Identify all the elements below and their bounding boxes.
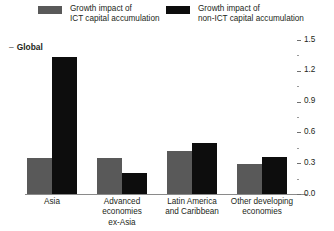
- x-axis-category-line: and Caribbean: [158, 207, 226, 217]
- bar-non-ict-group-2: [192, 143, 217, 194]
- legend-label-non-ict-line2: non-ICT capital accumulation: [198, 14, 304, 23]
- legend-label-ict-line1: Growth impact of: [70, 4, 132, 13]
- y-axis-tick: 1.2: [297, 71, 301, 72]
- tick-mark-icon: [297, 102, 301, 103]
- tick-mark-icon: [297, 117, 299, 118]
- x-axis-category-line: Other developing: [228, 197, 296, 207]
- legend-label-non-ict-line1: Growth impact of: [198, 4, 260, 13]
- y-axis-tick-label: 0.9: [304, 96, 315, 105]
- x-axis-category-line: Advanced economies: [88, 197, 156, 218]
- legend-swatch-icon: [38, 6, 62, 14]
- tick-mark-icon: [297, 163, 301, 164]
- x-axis-category-line: Latin America: [158, 197, 226, 207]
- legend-item-ict: Growth impact of ICT capital accumulatio…: [38, 4, 160, 24]
- y-axis: 0.00.30.60.91.21.5: [297, 40, 334, 200]
- x-axis-baseline: [25, 194, 307, 195]
- y-axis-minor-tick: [297, 55, 299, 56]
- legend-item-non-ict: Growth impact of non-ICT capital accumul…: [166, 4, 304, 24]
- legend-swatch-icon: [166, 6, 190, 14]
- y-axis-tick-label: 0.6: [304, 127, 315, 136]
- bar-ict-group-0: [27, 158, 52, 194]
- tick-mark-icon: [297, 132, 301, 133]
- tick-mark-icon: [297, 86, 299, 87]
- y-axis-tick-label: 1.5: [304, 35, 315, 44]
- y-axis-minor-tick: [297, 117, 299, 118]
- y-axis-minor-tick: [297, 148, 299, 149]
- y-axis-tick: 0.3: [297, 163, 301, 164]
- tick-mark-icon: [297, 40, 301, 41]
- tick-mark-icon: [297, 71, 301, 72]
- tick-mark-icon: [297, 55, 299, 56]
- bar-ict-group-3: [237, 164, 262, 194]
- global-annotation-dash: –: [9, 42, 14, 52]
- bar-non-ict-group-0: [52, 57, 77, 194]
- chart-container: Growth impact of ICT capital accumulatio…: [0, 0, 334, 231]
- tick-mark-icon: [297, 148, 299, 149]
- y-axis-tick: 0.0: [297, 194, 301, 195]
- bar-non-ict-group-3: [262, 157, 287, 194]
- chart-legend: Growth impact of ICT capital accumulatio…: [0, 0, 334, 34]
- tick-mark-icon: [297, 194, 301, 195]
- y-axis-tick-label: 1.2: [304, 65, 315, 74]
- x-axis-category-line: ex-Asia: [88, 218, 156, 228]
- tick-mark-icon: [297, 179, 299, 180]
- x-axis-category-label-2: Latin Americaand Caribbean: [158, 197, 226, 218]
- x-axis-category-line: economies: [228, 207, 296, 217]
- plot-area: [25, 40, 305, 194]
- bar-ict-group-2: [167, 151, 192, 194]
- x-axis-category-label-1: Advanced economiesex-Asia: [88, 197, 156, 228]
- y-axis-minor-tick: [297, 179, 299, 180]
- y-axis-minor-tick: [297, 86, 299, 87]
- x-axis-category-line: Asia: [18, 197, 86, 207]
- x-axis-category-label-0: Asia: [18, 197, 86, 207]
- y-axis-tick: 0.9: [297, 102, 301, 103]
- legend-label-ict-line2: ICT capital accumulation: [70, 14, 160, 23]
- bar-ict-group-1: [97, 158, 122, 194]
- y-axis-tick: 1.5: [297, 40, 301, 41]
- x-axis-category-label-3: Other developingeconomies: [228, 197, 296, 218]
- bar-non-ict-group-1: [122, 173, 147, 194]
- x-axis-labels: AsiaAdvanced economiesex-AsiaLatin Ameri…: [25, 197, 307, 231]
- y-axis-tick-label: 0.3: [304, 158, 315, 167]
- legend-label-ict: Growth impact of ICT capital accumulatio…: [70, 4, 160, 24]
- legend-label-non-ict: Growth impact of non-ICT capital accumul…: [198, 4, 304, 24]
- y-axis-tick: 0.6: [297, 132, 301, 133]
